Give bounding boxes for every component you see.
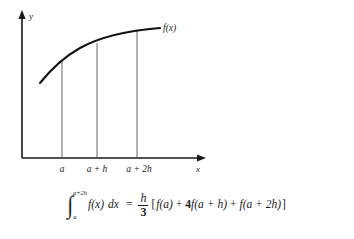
tick-label-a-plus-2h: a + 2h [126,164,152,174]
equals-sign: = [126,199,133,211]
curve-label: f(x) [163,23,176,34]
x-axis [22,154,206,161]
integral-group: ∫ a+2h a [67,193,85,217]
integrand: f(x) [88,199,104,211]
simpsons-rule-formula: ∫ a+2h a f(x) dx = h 3 [ f(a) + 4 f(a + … [0,192,354,218]
tick-label-a-plus-h: a + h [87,164,108,174]
ordinate-lines [62,31,137,158]
y-axis [18,10,25,158]
term-f-a-plus-h: f(a + h) [191,199,227,211]
fraction-denominator: 3 [138,206,148,219]
tick-label-a: a [60,164,65,174]
fraction-h-over-3: h 3 [138,192,148,218]
integral-upper-limit: a+2h [73,190,87,197]
y-axis-label: y [28,11,33,21]
fraction-numerator: h [138,192,148,205]
term-f-a-plus-2h: f(a + 2h) [239,199,281,211]
bracket-close: ] [282,199,286,211]
bracket-open: [ [151,199,155,211]
x-axis-label: x [195,164,200,174]
plus-sign-1: + [176,199,183,211]
differential: dx [108,199,119,211]
integral-lower-limit: a [68,214,82,221]
function-curve [40,28,160,83]
figure-root: y x f(x) a a + h a + 2h ∫ a+2h a f(x) dx… [0,0,354,239]
plus-sign-2: + [230,199,237,211]
term-f-a: f(a) [156,199,173,211]
